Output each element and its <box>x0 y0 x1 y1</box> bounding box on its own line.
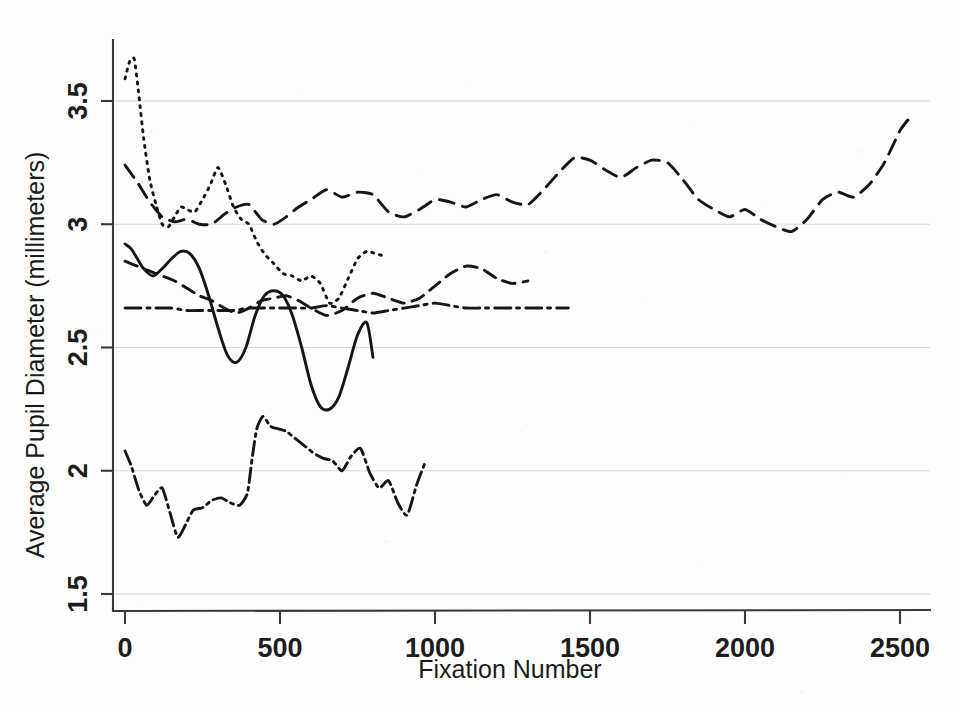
series-line-5 <box>125 303 568 313</box>
line-chart: 1.522.533.5 05001000150020002500 Fixatio… <box>0 0 960 712</box>
x-tick-label: 0 <box>117 633 132 663</box>
series-line-6 <box>125 417 426 538</box>
y-tick-labels: 1.522.533.5 <box>63 82 93 613</box>
x-tick-label: 2000 <box>715 633 775 663</box>
x-tick-label: 500 <box>257 633 302 663</box>
series-line-2 <box>125 118 909 231</box>
x-axis-ticks <box>125 611 900 624</box>
chart-figure: 1.522.533.5 05001000150020002500 Fixatio… <box>0 0 960 712</box>
axis-lines <box>113 40 930 611</box>
x-tick-label: 2500 <box>870 633 930 663</box>
y-tick-label: 3.5 <box>63 82 93 120</box>
x-axis-line <box>113 610 930 611</box>
x-axis-title: Fixation Number <box>418 655 601 683</box>
series-line-3 <box>125 244 373 410</box>
y-tick-label: 1.5 <box>63 575 93 613</box>
y-tick-label: 2 <box>63 463 93 478</box>
y-tick-label: 3 <box>63 217 93 232</box>
grid-lines <box>113 101 930 594</box>
y-axis-title: Average Pupil Diameter (millimeters) <box>21 152 49 559</box>
y-axis-ticks <box>101 101 113 594</box>
y-tick-label: 2.5 <box>63 329 93 367</box>
data-series-group <box>125 58 909 538</box>
